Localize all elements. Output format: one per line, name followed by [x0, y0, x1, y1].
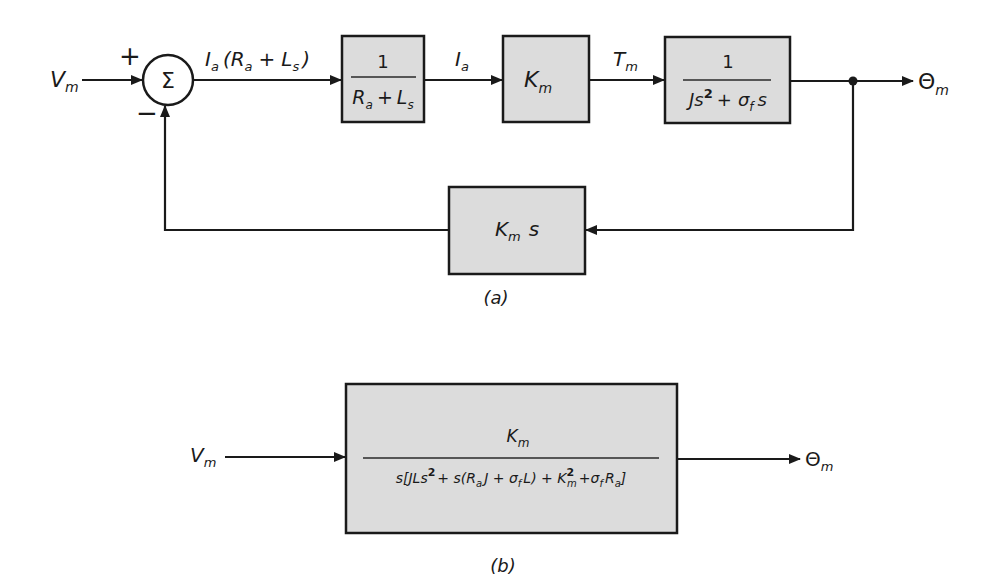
diagram-b: Vm Km s[JLs2+ s(RaJ + σfL) + K2m+σfRa] Θ…	[190, 384, 833, 576]
sigma-symbol: Σ	[161, 68, 175, 93]
diagram-a: Vm Σ + − Ia(Ra+Ls) 1 Ra+Ls Ia	[50, 36, 949, 308]
block-torque-constant: Km	[503, 36, 589, 122]
input-label-vm: Vm	[50, 67, 79, 95]
output-label-theta: Θm	[918, 69, 949, 98]
caption-a: (a)	[483, 287, 508, 308]
block-torque-constant-rect	[503, 36, 589, 122]
error-signal-label: Ia(Ra+Ls)	[205, 47, 310, 74]
summing-junction: Σ + −	[119, 41, 193, 128]
block-mechanical-numerator: 1	[722, 51, 733, 72]
block-mechanical: 1 Js2+σfs	[665, 37, 790, 123]
block-armature-numerator: 1	[377, 51, 388, 72]
input-label-vm: Vm	[190, 443, 216, 470]
minus-sign: −	[136, 98, 158, 128]
output-label-theta: Θm	[805, 447, 833, 474]
feedback-arrow-out	[165, 106, 449, 230]
plus-sign: +	[119, 41, 141, 71]
block-diagram: Vm Σ + − Ia(Ra+Ls) 1 Ra+Ls Ia	[0, 0, 993, 579]
block-armature: 1 Ra+Ls	[342, 36, 424, 122]
block-closed-loop-transfer: Km s[JLs2+ s(RaJ + σfL) + K2m+σfRa]	[346, 384, 677, 533]
current-label: Ia	[455, 47, 469, 74]
caption-b: (b)	[490, 555, 515, 576]
block-back-emf: Kms	[449, 187, 585, 274]
torque-label: Tm	[613, 47, 638, 74]
